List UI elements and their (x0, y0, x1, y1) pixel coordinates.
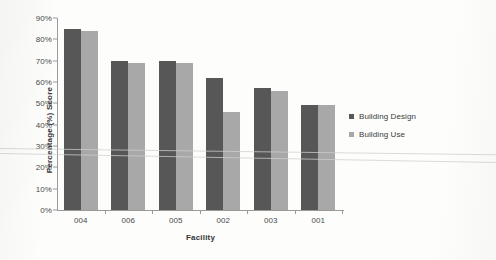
bar (206, 78, 223, 210)
bar (301, 105, 318, 210)
legend-item-building-use: Building Use (349, 130, 416, 139)
legend-swatch-icon (349, 114, 354, 119)
x-axis-tick-mark (200, 210, 201, 214)
x-axis-title: Facility (57, 233, 344, 242)
bar (64, 29, 81, 210)
bar-group (295, 18, 343, 210)
legend-label: Building Use (359, 130, 405, 139)
legend-item-building-design: Building Design (349, 112, 416, 121)
bar (176, 63, 193, 210)
bar (271, 91, 288, 210)
chart-legend: Building Design Building Use (349, 112, 416, 148)
bar (223, 112, 240, 210)
bar (111, 61, 128, 210)
x-axis-tick-mark (247, 210, 248, 214)
chart-screenshot: Percentage (%) Score 90%80%70%60%50%40%3… (0, 0, 496, 260)
bar (318, 105, 335, 210)
bar (128, 63, 145, 210)
x-axis-tick-mark (105, 210, 106, 214)
bar-group (200, 18, 248, 210)
legend-label: Building Design (359, 112, 416, 121)
bar (254, 88, 271, 210)
bar-group (247, 18, 295, 210)
bar-group (152, 18, 200, 210)
bar-group (57, 18, 105, 210)
legend-swatch-icon (349, 132, 354, 137)
x-axis-tick-mark (342, 210, 343, 214)
bar (159, 61, 176, 210)
x-axis-line (57, 210, 344, 211)
x-axis-tick-mark (295, 210, 296, 214)
x-axis-tick-mark (152, 210, 153, 214)
plot-area: 90%80%70%60%50%40%30%20%10%0% (57, 18, 342, 210)
bar (81, 31, 98, 210)
bar-group (105, 18, 153, 210)
x-axis-tick-label: 001 (288, 216, 348, 225)
